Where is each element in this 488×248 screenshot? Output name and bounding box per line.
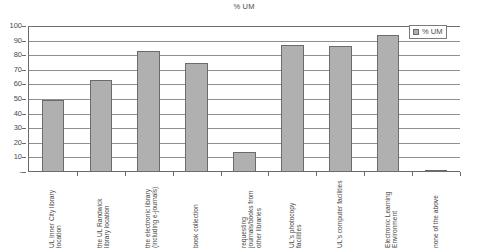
bar — [377, 35, 400, 172]
bar-slot — [281, 26, 304, 172]
x-axis-label-text: UL Inner City library location — [48, 179, 63, 248]
bar — [185, 63, 208, 173]
x-axis-label: the UL Randwick library location — [77, 177, 125, 248]
bar-slot — [185, 26, 208, 172]
x-tick-mark — [460, 172, 461, 176]
x-axis-label: Electronic Learning Environment — [364, 177, 412, 248]
y-tick-label: 50 — [14, 95, 22, 103]
bar-slot — [90, 26, 113, 172]
chart-legend: % UM — [409, 25, 447, 39]
bar-slot — [137, 26, 160, 172]
y-tick-label: 80 — [14, 51, 22, 59]
x-axis-labels: UL Inner City library locationthe UL Ran… — [29, 177, 460, 248]
x-tick-mark — [77, 172, 78, 176]
y-tick-label: 60 — [14, 81, 22, 89]
x-axis-label: requesting journals/books from other lib… — [221, 177, 269, 248]
y-tick-label: 20 — [14, 139, 22, 147]
bar-slot — [377, 26, 400, 172]
y-tick-mark-10 — [22, 157, 26, 158]
legend-label: % UM — [422, 28, 442, 36]
y-tick-mark-80 — [22, 55, 26, 56]
x-axis-label: the electronic library (including e-jour… — [125, 177, 173, 248]
x-axis-label-text: none of the above — [432, 179, 439, 248]
y-tick-mark-20 — [22, 143, 26, 144]
y-tick-label: 90 — [14, 37, 22, 45]
y-tick-mark-90 — [22, 41, 26, 42]
bar — [329, 46, 352, 172]
bar-slot — [425, 26, 448, 172]
x-tick-mark — [268, 172, 269, 176]
chart-title: % UM — [0, 2, 488, 11]
x-axis-label-text: the electronic library (including e-jour… — [144, 179, 159, 248]
legend-swatch-icon — [413, 29, 419, 35]
y-tick-mark-70 — [22, 70, 26, 71]
bar-slot — [42, 26, 65, 172]
x-axis-label: none of the above — [412, 177, 460, 248]
y-tick-label: 10 — [14, 154, 22, 162]
x-axis-label: UL's photocopy facilities — [268, 177, 316, 248]
x-axis-label: book collection — [173, 177, 221, 248]
y-tick-label: - — [20, 168, 23, 176]
y-tick-label: 70 — [14, 66, 22, 74]
x-axis-label: UL's computer facilities — [316, 177, 364, 248]
bar — [90, 80, 113, 172]
x-axis-label-text: the UL Randwick library location — [96, 179, 111, 248]
bar-chart: % UM 100908070605040302010- UL Inner Cit… — [0, 0, 488, 248]
y-tick-label: 30 — [14, 124, 22, 132]
y-tick-mark-0 — [22, 172, 26, 173]
y-tick-mark-40 — [22, 114, 26, 115]
y-tick-mark-100 — [22, 26, 26, 27]
x-tick-mark — [125, 172, 126, 176]
bar-slot — [329, 26, 352, 172]
x-axis-label-text: Electronic Learning Environment — [384, 179, 399, 248]
bar-series — [29, 26, 460, 172]
x-tick-mark — [412, 172, 413, 176]
x-axis-label-text: requesting journals/books from other lib… — [240, 179, 262, 248]
bar-slot — [233, 26, 256, 172]
bar — [42, 100, 65, 172]
y-tick-mark-50 — [22, 99, 26, 100]
x-axis-label-text: UL's photocopy facilities — [288, 179, 303, 248]
bar — [137, 51, 160, 172]
y-tick-mark-60 — [22, 84, 26, 85]
x-axis-label-text: book collection — [192, 179, 199, 248]
x-tick-mark — [173, 172, 174, 176]
x-axis-ticks — [29, 172, 460, 176]
x-axis-label-text: UL's computer facilities — [336, 179, 343, 248]
bar — [281, 45, 304, 172]
x-axis-label: UL Inner City library location — [29, 177, 77, 248]
x-tick-mark — [221, 172, 222, 176]
x-tick-mark — [316, 172, 317, 176]
bar — [233, 152, 256, 172]
y-tick-label: 100 — [9, 22, 22, 30]
y-tick-mark-30 — [22, 128, 26, 129]
y-tick-label: 40 — [14, 110, 22, 118]
x-tick-mark — [364, 172, 365, 176]
y-axis: 100908070605040302010- — [0, 26, 26, 172]
